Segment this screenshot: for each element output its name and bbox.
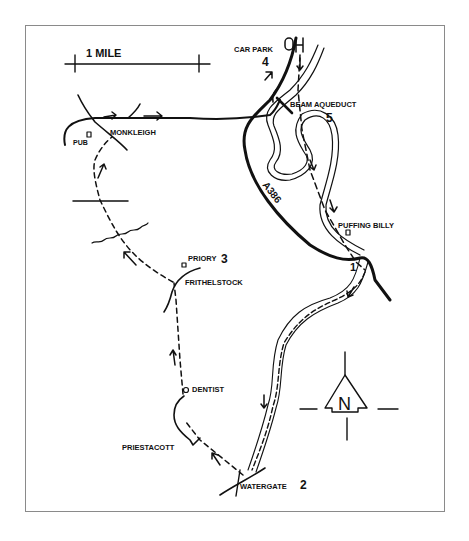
north-arrow-icon: N [300, 352, 398, 440]
label-watergate: WATERGATE [240, 482, 287, 491]
label-frithelstock: FRITHELSTOCK [185, 278, 243, 287]
label-beam-aqueduct: BEAM AQUEDUCT [290, 100, 357, 109]
label-priestacott: PRIESTACOTT [122, 443, 175, 452]
stop-5: 5 [326, 111, 333, 125]
label-priory: PRIORY [188, 254, 216, 263]
scale-bar: 1 MILE [65, 47, 210, 72]
north-label: N [338, 394, 351, 414]
route-map: 1 MILE A386 [0, 0, 469, 541]
stop-4: 4 [262, 55, 269, 69]
stop-1: 1 [350, 261, 356, 273]
stop-2: 2 [300, 478, 307, 492]
a386-road [244, 38, 390, 300]
label-puffing-billy: PUFFING BILLY [338, 221, 394, 230]
label-dentist: DENTIST [192, 385, 225, 394]
label-monkleigh: MONKLEIGH [110, 128, 156, 137]
label-car-park: CAR PARK [234, 45, 274, 54]
road-label: A386 [260, 179, 284, 205]
label-pub: PUB [73, 139, 88, 146]
stop-3: 3 [221, 252, 228, 266]
scale-label: 1 MILE [86, 47, 121, 59]
